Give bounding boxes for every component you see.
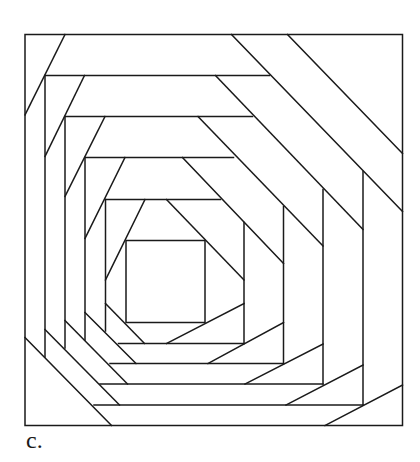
bottom-left-diagonal-ring-3 [85,313,136,364]
bottom-left-diagonal-ring-2 [65,321,128,385]
diagonal-lines [25,35,403,426]
bottom-left-diagonal-ring-0 [25,338,112,426]
top-right-diagonal-ring-3 [183,158,284,264]
top-right-diagonal-ring-1 [216,76,364,230]
bottom-right-diagonal-ring-1 [286,365,363,405]
top-right-diagonal-ring-0 [288,35,403,154]
log-cabin-spiral-figure [0,0,420,462]
bottom-left-diagonal-ring-4 [106,304,145,344]
bottom-left-diagonal-ring-1 [45,330,120,406]
inner-square [126,241,205,323]
figure-caption: c. [26,428,43,452]
top-right-diagonal-ring-0 [232,35,403,212]
top-right-diagonal-ring-2 [198,117,323,247]
